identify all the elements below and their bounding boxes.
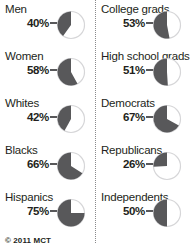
- copyright-credit: © 2011 MCT: [5, 236, 51, 245]
- stat-label: Whites: [5, 97, 39, 109]
- pie-chart-wrapper: [152, 198, 182, 228]
- pie-chart: [56, 198, 86, 228]
- pie-chart: [56, 151, 86, 181]
- stat-row: Independents50%: [96, 188, 191, 235]
- stat-label: Democrats: [101, 97, 155, 109]
- stat-row: College grads53%: [96, 0, 191, 47]
- stat-label: Blacks: [5, 144, 38, 156]
- stat-value: 53%: [101, 17, 145, 29]
- pie-chart: [56, 10, 86, 40]
- stat-row: Whites42%: [0, 94, 95, 141]
- stat-value: 40%: [5, 17, 49, 29]
- pie-chart-wrapper: [56, 198, 86, 228]
- stat-row: Blacks66%: [0, 141, 95, 188]
- pie-chart: [56, 57, 86, 87]
- stat-label: Hispanics: [5, 191, 53, 203]
- stat-row: High school grads51%: [96, 47, 191, 94]
- stat-row: Democrats67%: [96, 94, 191, 141]
- stat-row: Men40%: [0, 0, 95, 47]
- pie-chart: [56, 104, 86, 134]
- stat-value: 51%: [101, 64, 145, 76]
- stat-label: Women: [5, 50, 43, 62]
- stat-row: Republicans26%: [96, 141, 191, 188]
- pie-wedge: [154, 153, 168, 167]
- pie-chart-wrapper: [56, 104, 86, 134]
- stat-value: 75%: [5, 205, 49, 217]
- pie-wedge: [154, 200, 168, 227]
- pie-chart-wrapper: [152, 57, 182, 87]
- stat-row: Women58%: [0, 47, 95, 94]
- stat-value: 42%: [5, 111, 49, 123]
- pie-chart-wrapper: [56, 151, 86, 181]
- stat-row: Hispanics75%: [0, 188, 95, 235]
- pie-chart: [152, 198, 182, 228]
- stat-value: 67%: [101, 111, 145, 123]
- pie-chart-wrapper: [56, 10, 86, 40]
- pie-chart-wrapper: [152, 104, 182, 134]
- pie-chart-wrapper: [152, 10, 182, 40]
- stat-label: Men: [5, 3, 27, 15]
- stat-value: 50%: [101, 205, 145, 217]
- pie-chart: [152, 104, 182, 134]
- infographic-root: Men40%Women58%Whites42%Blacks66%Hispanic…: [0, 0, 191, 248]
- pie-chart: [152, 57, 182, 87]
- stat-value: 26%: [101, 158, 145, 170]
- pie-wedge: [153, 59, 167, 86]
- stat-value: 58%: [5, 64, 49, 76]
- pie-chart-wrapper: [56, 57, 86, 87]
- stat-value: 66%: [5, 158, 49, 170]
- pie-chart: [152, 10, 182, 40]
- pie-chart: [152, 151, 182, 181]
- pie-chart-wrapper: [152, 151, 182, 181]
